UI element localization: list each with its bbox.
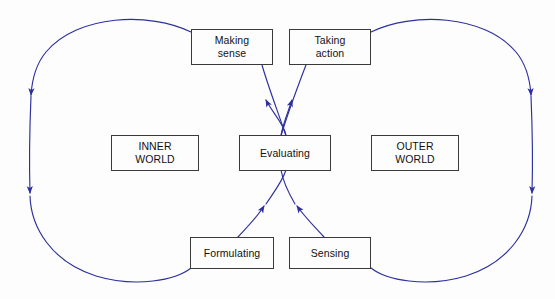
connector-left-loop-mid <box>30 96 31 193</box>
node-taking-action[interactable]: Taking action <box>289 29 371 65</box>
node-sensing[interactable]: Sensing <box>289 237 371 269</box>
connector-taking-action-tail <box>281 65 306 136</box>
connector-left-loop-upper <box>31 19 191 95</box>
connector-right-loop-upper <box>371 19 531 95</box>
node-making-sense[interactable]: Making sense <box>191 29 273 65</box>
connector-sensing-to-evaluating <box>297 206 324 237</box>
connector-formulating-tail <box>266 170 286 204</box>
node-formulating[interactable]: Formulating <box>190 237 274 269</box>
connector-formulating-to-evaluating <box>238 206 264 237</box>
connector-sensing-tail <box>281 170 295 204</box>
connector-right-loop-lower <box>371 196 532 282</box>
node-inner-world[interactable]: INNER WORLD <box>111 135 199 171</box>
node-evaluating[interactable]: Evaluating <box>239 135 331 171</box>
connector-making-sense-tail <box>262 65 286 136</box>
connector-right-loop-mid <box>531 96 532 193</box>
diagram-canvas: Making sense Taking action INNER WORLD E… <box>0 0 555 299</box>
node-outer-world[interactable]: OUTER WORLD <box>371 135 459 171</box>
connector-left-loop-lower <box>30 196 191 282</box>
